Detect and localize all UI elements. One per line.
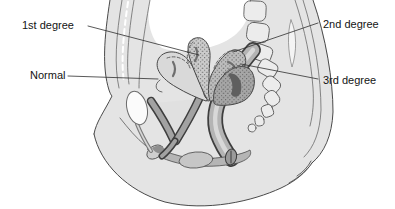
lumbar-vertebra (246, 22, 270, 44)
label-normal: Normal (30, 69, 65, 81)
pelvis-diagram: 1st degree Normal 2nd degree 3rd degree (0, 0, 395, 209)
label-third-degree: 3rd degree (323, 74, 376, 86)
label-first-degree: 1st degree (22, 19, 74, 31)
label-second-degree: 2nd degree (323, 18, 379, 30)
lumbar-vertebra (243, 0, 266, 21)
pelvis-retroversion-figure: 1st degree Normal 2nd degree 3rd degree (0, 0, 395, 209)
coccyx-tip (248, 124, 256, 132)
